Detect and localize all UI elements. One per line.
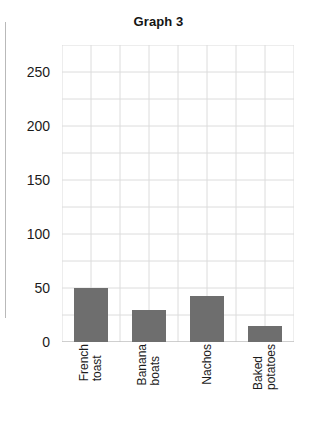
bar-banana-boats [132, 310, 166, 342]
x-tick-label-line: boats [149, 344, 162, 385]
x-tick-label-line: Nachos [201, 344, 214, 385]
y-tick-label: 250 [27, 64, 50, 80]
bar-french-toast [74, 288, 108, 342]
x-tick-label: Frenchtoast [78, 344, 104, 381]
x-tick-label-line: toast [91, 344, 104, 381]
x-tick-label: Nachos [201, 344, 214, 385]
x-tick-baked-potatoes: Bakedpotatoes [236, 344, 294, 432]
y-tick-label: 200 [27, 118, 50, 134]
x-tick-nachos: Nachos [178, 344, 236, 432]
y-tick-label: 50 [34, 280, 50, 296]
x-tick-banana-boats: Bananaboats [120, 344, 178, 432]
x-tick-label: Bananaboats [136, 344, 162, 385]
bar-baked-potatoes [248, 326, 282, 342]
bar-nachos [190, 296, 224, 342]
x-tick-label: Bakedpotatoes [252, 344, 278, 390]
y-axis: 050100150200250 [0, 45, 58, 342]
bars-layer [62, 45, 294, 342]
x-tick-french-toast: Frenchtoast [62, 344, 120, 432]
x-axis: FrenchtoastBananaboatsNachosBakedpotatoe… [62, 344, 294, 432]
plot-area [62, 45, 294, 342]
y-tick-label: 150 [27, 172, 50, 188]
x-tick-label-line: potatoes [265, 344, 278, 390]
chart-title: Graph 3 [0, 14, 317, 29]
y-tick-label: 100 [27, 226, 50, 242]
y-tick-label: 0 [42, 334, 50, 350]
